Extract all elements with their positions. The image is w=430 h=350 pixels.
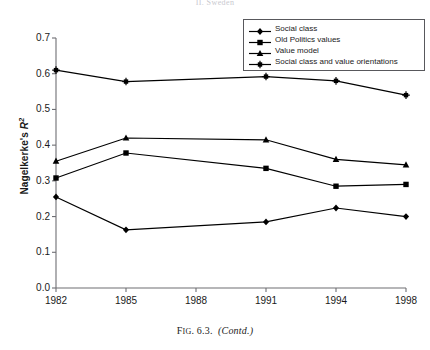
diamond-marker bbox=[123, 226, 129, 233]
series-social-class bbox=[53, 194, 409, 234]
legend-item-2: Value model bbox=[248, 45, 419, 56]
star-marker bbox=[122, 78, 130, 86]
diamond-marker bbox=[53, 194, 59, 201]
figure-caption: FIG. 6.3. (Contd.) bbox=[0, 325, 430, 336]
series-old-politics-values bbox=[53, 150, 408, 189]
series-value-model bbox=[53, 134, 410, 167]
axis-lines bbox=[56, 38, 406, 288]
x-tick-label-1988: 1988 bbox=[173, 295, 219, 306]
caption-number: . 6.3. bbox=[191, 325, 212, 336]
figure-root: II. Sweden Nagelkerke's R2 0.00.10.20.30… bbox=[0, 0, 430, 350]
legend-rows: Social classOld Politics valuesValue mod… bbox=[248, 23, 419, 67]
star-marker bbox=[332, 77, 340, 85]
legend-label-1: Old Politics values bbox=[272, 34, 340, 45]
diamond-marker bbox=[263, 219, 269, 226]
square-marker bbox=[403, 182, 408, 187]
legend-label-0: Social class bbox=[272, 23, 317, 34]
triangle-marker bbox=[248, 45, 272, 56]
x-tick-label-1998: 1998 bbox=[383, 295, 429, 306]
square-marker bbox=[263, 166, 268, 171]
legend-item-1: Old Politics values bbox=[248, 34, 419, 45]
y-tick-label-1: 0.1 bbox=[16, 247, 50, 257]
diamond-marker bbox=[403, 213, 409, 220]
square-marker bbox=[248, 34, 272, 45]
y-axis-title-exponent: 2 bbox=[18, 118, 25, 122]
y-tick-label-5: 0.5 bbox=[16, 104, 50, 114]
legend-item-0: Social class bbox=[248, 23, 419, 34]
star-marker bbox=[402, 91, 410, 99]
x-tick-label-1991: 1991 bbox=[243, 295, 289, 306]
x-tick-label-1994: 1994 bbox=[313, 295, 359, 306]
legend-label-3: Social class and value orientations bbox=[272, 56, 398, 67]
diamond-marker bbox=[248, 23, 272, 34]
x-tick-marks bbox=[56, 288, 406, 292]
y-tick-label-3: 0.3 bbox=[16, 176, 50, 186]
y-tick-label-2: 0.2 bbox=[16, 212, 50, 222]
diamond-marker bbox=[333, 205, 339, 212]
star-marker bbox=[52, 66, 60, 74]
x-tick-label-1985: 1985 bbox=[103, 295, 149, 306]
caption-contd: (Contd.) bbox=[218, 325, 253, 336]
chart-legend: Social classOld Politics valuesValue mod… bbox=[243, 19, 425, 71]
y-tick-label-7: 0.7 bbox=[16, 33, 50, 43]
y-tick-label-4: 0.4 bbox=[16, 140, 50, 150]
star-marker bbox=[262, 73, 270, 81]
y-axis-title-symbol: R bbox=[19, 122, 30, 129]
legend-item-3: Social class and value orientations bbox=[248, 56, 419, 67]
square-marker bbox=[53, 175, 58, 180]
y-tick-label-0: 0.0 bbox=[16, 283, 50, 293]
y-tick-label-6: 0.6 bbox=[16, 69, 50, 79]
square-marker bbox=[333, 184, 338, 189]
x-tick-label-1982: 1982 bbox=[33, 295, 79, 306]
legend-label-2: Value model bbox=[272, 45, 319, 56]
square-marker bbox=[123, 150, 128, 155]
series-social-class-and-value-orientations bbox=[52, 66, 410, 99]
star-marker bbox=[248, 56, 272, 67]
star-marker bbox=[256, 61, 264, 69]
